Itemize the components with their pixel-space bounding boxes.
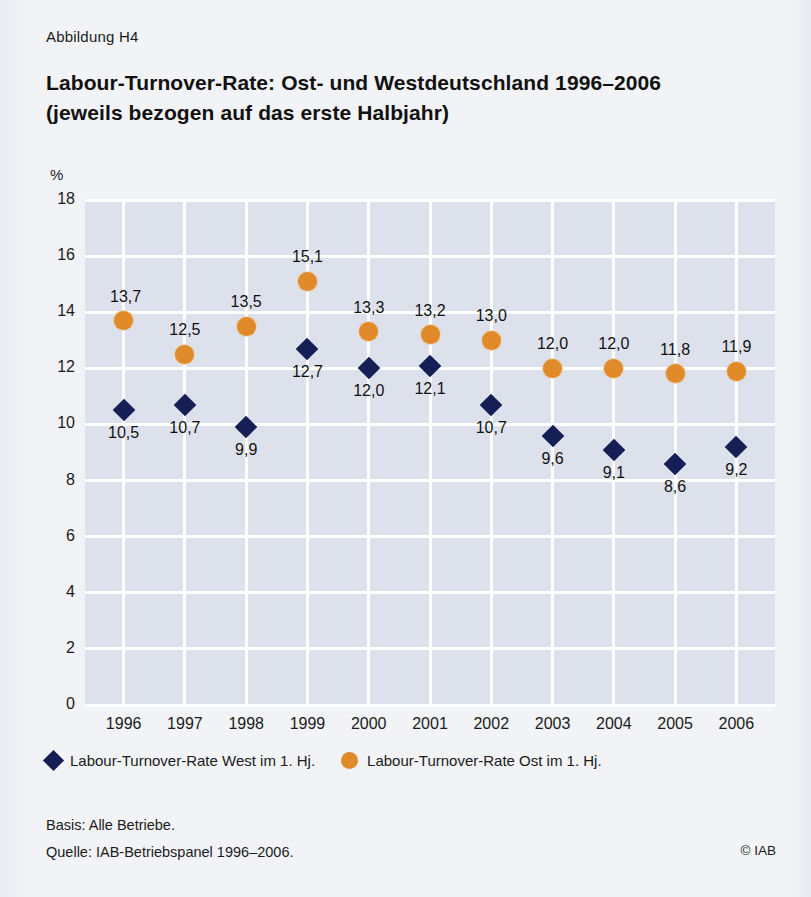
page-title: Labour-Turnover-Rate: Ost- und Westdeuts…	[46, 68, 776, 128]
data-point-marker	[727, 362, 746, 381]
figure-title-line-2: (jeweils bezogen auf das erste Halbjahr)	[46, 98, 776, 128]
x-axis-tick: 2006	[696, 715, 776, 733]
chart-plot-area: 10,510,79,912,712,012,110,79,69,18,69,21…	[85, 200, 775, 705]
gridline-vertical	[490, 200, 493, 705]
y-axis-tick: 0	[33, 695, 75, 713]
y-axis-tick: 10	[33, 414, 75, 432]
data-point-label: 13,7	[90, 288, 162, 306]
legend-item-west: Labour-Turnover-Rate West im 1. Hj.	[46, 752, 315, 769]
copyright-notice: © IAB	[741, 839, 776, 864]
figure-title-line-1: Labour-Turnover-Rate: Ost- und Westdeuts…	[46, 71, 661, 94]
data-point-label: 8,6	[639, 478, 711, 496]
y-axis-tick: 2	[33, 639, 75, 657]
y-axis-tick: 14	[33, 302, 75, 320]
data-point-label: 11,9	[700, 338, 772, 356]
circle-marker-icon	[341, 752, 358, 769]
legend-label-ost: Labour-Turnover-Rate Ost im 1. Hj.	[367, 752, 602, 769]
figure-page: Abbildung H4 Labour-Turnover-Rate: Ost- …	[0, 0, 811, 897]
footer-basis: Basis: Alle Betriebe.	[46, 817, 175, 833]
data-point-marker	[604, 359, 623, 378]
footer-source: Quelle: IAB-Betriebspanel 1996–2006.	[46, 844, 293, 860]
y-axis-tick: 18	[33, 190, 75, 208]
figure-number: Abbildung H4	[46, 28, 138, 45]
data-point-marker	[298, 272, 317, 291]
data-point-label: 12,7	[271, 363, 343, 381]
y-axis-tick: 8	[33, 471, 75, 489]
y-axis-tick: 12	[33, 358, 75, 376]
gridline-vertical	[122, 200, 125, 705]
y-axis-tick: 16	[33, 246, 75, 264]
data-point-marker	[237, 317, 256, 336]
gridline-vertical	[429, 200, 432, 705]
chart-legend: Labour-Turnover-Rate West im 1. Hj. Labo…	[46, 752, 602, 769]
gridline-vertical	[183, 200, 186, 705]
legend-label-west: Labour-Turnover-Rate West im 1. Hj.	[70, 752, 315, 769]
data-point-label: 13,0	[455, 307, 527, 325]
gridline-vertical	[367, 200, 370, 705]
data-point-label: 9,2	[700, 461, 772, 479]
y-axis-tick: 4	[33, 583, 75, 601]
data-point-label: 10,7	[455, 419, 527, 437]
data-point-label: 12,5	[149, 321, 221, 339]
data-point-marker	[666, 364, 685, 383]
data-point-label: 10,7	[149, 419, 221, 437]
diamond-marker-icon	[43, 750, 64, 771]
data-point-marker	[482, 331, 501, 350]
data-point-label: 9,9	[210, 441, 282, 459]
figure-footer: Basis: Alle Betriebe. Quelle: IAB-Betrie…	[46, 812, 776, 866]
data-point-label: 15,1	[271, 248, 343, 266]
legend-item-ost: Labour-Turnover-Rate Ost im 1. Hj.	[341, 752, 602, 769]
y-axis-tick: 6	[33, 527, 75, 545]
data-point-marker	[543, 359, 562, 378]
data-point-label: 13,5	[210, 293, 282, 311]
footer-source-row: Quelle: IAB-Betriebspanel 1996–2006. © I…	[46, 839, 776, 866]
footer-basis-row: Basis: Alle Betriebe.	[46, 812, 776, 839]
data-point-marker	[421, 325, 440, 344]
y-axis-unit-label: %	[50, 166, 63, 183]
data-point-label: 12,1	[394, 380, 466, 398]
